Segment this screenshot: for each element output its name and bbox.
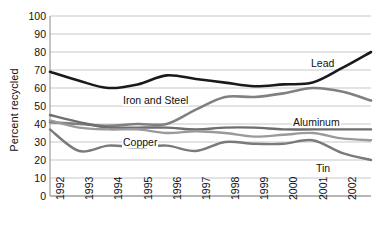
x-tick-label: 1994 [113,177,124,200]
x-tick-label: 1992 [55,177,66,200]
series-label-tin: Tin [315,163,331,174]
x-tick-label: 2000 [288,177,299,200]
x-tick-label: 2001 [318,177,329,200]
recycling-rates-line-chart: Percent recycled 1009080706050403020100 … [0,0,375,248]
series-label-copper: Copper [122,137,158,148]
x-tick-label: 1999 [259,177,270,200]
series-label-iron-and-steel: Iron and Steel [122,95,189,106]
x-tick-label: 2002 [347,177,358,200]
x-tick-label: 1995 [143,177,154,200]
series-label-aluminum: Aluminum [292,117,341,128]
x-tick-label: 1998 [230,177,241,200]
x-tick-label: 1997 [201,177,212,200]
x-tick-label: 1996 [172,177,183,200]
series-label-lead: Lead [310,58,335,69]
x-tick-label: 1993 [84,177,95,200]
